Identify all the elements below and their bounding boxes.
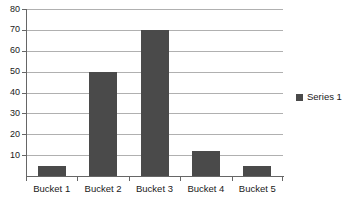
x-axis-category-label: Bucket 5 [232, 182, 283, 195]
x-axis-tick [282, 176, 283, 181]
y-axis-tick-label: 10 [10, 151, 20, 160]
x-axis-labels: Bucket 1Bucket 2Bucket 3Bucket 4Bucket 5 [26, 182, 284, 198]
bar [192, 151, 220, 176]
y-axis-tick-label: 20 [10, 130, 20, 139]
bar [141, 30, 169, 176]
bar-series-series-1 [26, 9, 283, 176]
x-axis-tick [232, 176, 233, 181]
x-axis-category-label: Bucket 2 [77, 182, 128, 195]
x-axis-tick [129, 176, 130, 181]
bar [38, 166, 66, 176]
legend-label-series-1: Series 1 [307, 92, 342, 102]
y-axis-tick-label: 70 [10, 25, 20, 34]
y-axis-labels: 1020304050607080 [0, 0, 24, 207]
bar [89, 72, 117, 176]
y-axis-tick-label: 80 [10, 5, 20, 14]
y-axis-line [26, 9, 27, 177]
y-axis-tick-label: 40 [10, 88, 20, 97]
x-axis-tick [77, 176, 78, 181]
x-axis-tick [26, 176, 27, 181]
y-axis-tick-label: 60 [10, 46, 20, 55]
y-axis-tick-label: 50 [10, 67, 20, 76]
chart-legend: Series 1 [296, 92, 342, 102]
y-axis-tick-label: 30 [10, 109, 20, 118]
legend-swatch-icon [296, 94, 303, 101]
bar-chart: 1020304050607080 Bucket 1Bucket 2Bucket … [0, 0, 348, 207]
x-axis-category-label: Bucket 3 [129, 182, 180, 195]
x-axis-tick [180, 176, 181, 181]
bar [243, 166, 271, 176]
plot-area [26, 9, 283, 176]
x-axis-category-label: Bucket 1 [26, 182, 77, 195]
x-axis-category-label: Bucket 4 [180, 182, 231, 195]
